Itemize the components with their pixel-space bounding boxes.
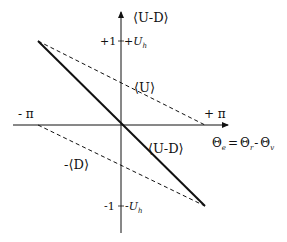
theta-e-sub: e	[222, 144, 226, 152]
d-curve-label: -⟨D⟩	[64, 157, 89, 172]
ud-curve-label: ⟨U-D⟩	[148, 141, 184, 156]
x-label-plus-pi: + π	[204, 107, 226, 121]
uh-sub: h	[138, 207, 143, 215]
y-tick-label-minus-uh: -Uh	[125, 200, 143, 215]
theta-v-sub: v	[270, 144, 274, 152]
phase-diagram: ⟨U-D⟩ +1 +Uh -1 -Uh - π + π Θe=Θr-Θv ⟨U⟩…	[0, 0, 287, 242]
theta-v: Θ	[260, 136, 270, 150]
uh-sub: h	[143, 42, 148, 50]
plus-sign: +	[124, 35, 133, 48]
theta-e: Θ	[212, 136, 222, 150]
y-tick-label-minus-one: -1	[104, 200, 115, 213]
y-tick-label-plus-one: +1	[100, 35, 116, 48]
y-axis-label: ⟨U-D⟩	[133, 10, 169, 25]
equals-sign: =	[228, 136, 238, 150]
x-axis-formula: Θe=Θr-Θv	[212, 136, 274, 152]
y-tick-label-plus-uh: +Uh	[124, 35, 147, 50]
theta-r: Θ	[240, 136, 250, 150]
u-curve-label: ⟨U⟩	[134, 80, 155, 95]
x-label-minus-pi: - π	[18, 107, 34, 121]
minus-sign: -	[254, 136, 258, 150]
